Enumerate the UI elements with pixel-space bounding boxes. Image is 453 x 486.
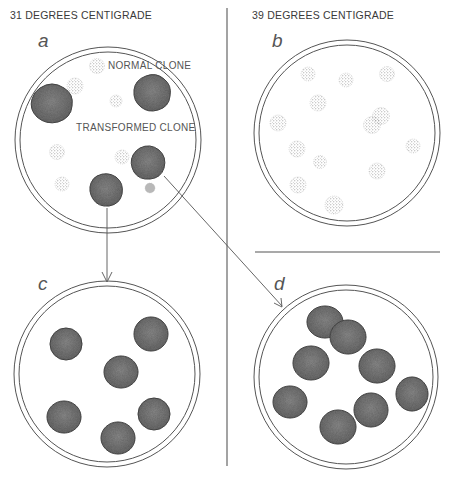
petri-dish-d (254, 285, 438, 469)
panel-label-d: d (274, 273, 285, 295)
normal-clones-b (270, 67, 420, 215)
transformed-clones-d (273, 306, 428, 444)
normal-clone-annotation: NORMAL CLONE (108, 60, 191, 71)
petri-dish-a (15, 47, 282, 307)
arrow-a-to-d (164, 176, 282, 306)
petri-dish-b (254, 40, 440, 226)
petri-dish-c (14, 281, 200, 467)
transformed-clones-c (47, 317, 170, 454)
diagram-canvas (0, 0, 453, 486)
panel-label-b: b (272, 30, 283, 52)
panel-label-a: a (38, 30, 49, 52)
panel-label-c: c (38, 273, 48, 295)
header-31-degrees: 31 DEGREES CENTIGRADE (10, 9, 152, 21)
transformed-clone-annotation: TRANSFORMED CLONE (76, 122, 196, 133)
header-39-degrees: 39 DEGREES CENTIGRADE (252, 9, 394, 21)
